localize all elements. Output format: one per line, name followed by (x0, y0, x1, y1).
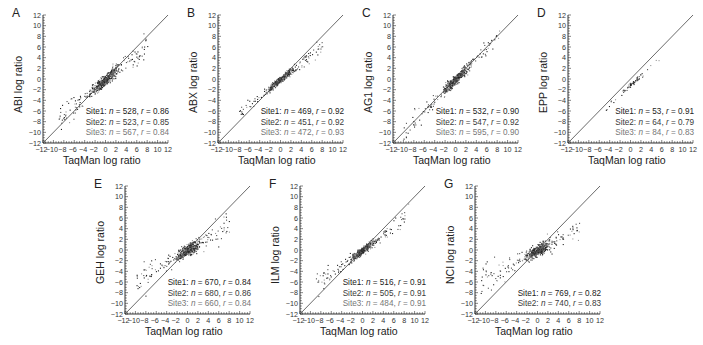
svg-text:6: 6 (392, 316, 396, 325)
site-stats-legend: Site1: n = 670, r = 0.84Site2: n = 680, … (168, 278, 251, 310)
site-stat-row: Site1: n = 528, r = 0.86 (86, 107, 169, 118)
svg-text:−10: −10 (46, 145, 58, 154)
svg-text:−4: −4 (115, 267, 123, 276)
site-stat-row: Site1: n = 469, r = 0.92 (261, 107, 344, 118)
svg-text:2: 2 (639, 145, 643, 154)
svg-text:−2: −2 (33, 85, 41, 94)
svg-text:12: 12 (339, 145, 347, 154)
x-axis-label: TaqMan log ratio (63, 154, 141, 166)
svg-text:10: 10 (411, 316, 419, 325)
svg-text:−8: −8 (33, 117, 41, 126)
svg-text:−10: −10 (461, 299, 473, 308)
svg-text:−4: −4 (383, 96, 391, 105)
svg-text:−2: −2 (115, 256, 123, 265)
svg-text:4: 4 (469, 224, 473, 233)
svg-text:−8: −8 (233, 145, 241, 154)
svg-text:−6: −6 (244, 145, 252, 154)
svg-text:12: 12 (164, 145, 172, 154)
svg-text:2: 2 (546, 316, 550, 325)
svg-text:0: 0 (387, 75, 391, 84)
svg-text:−8: −8 (115, 288, 123, 297)
svg-text:−4: −4 (254, 145, 262, 154)
svg-text:4: 4 (387, 53, 391, 62)
svg-text:2: 2 (469, 235, 473, 244)
site-stats-legend: Site1: n = 53, r = 0.91Site2: n = 64, r … (615, 107, 694, 139)
svg-text:−6: −6 (290, 278, 298, 287)
svg-text:−2: −2 (208, 85, 216, 94)
svg-text:2: 2 (371, 316, 375, 325)
svg-text:4: 4 (119, 224, 123, 233)
panel-d: D121086420−2−4−6−8−10−12−12−10−8−6−4−202… (525, 0, 700, 172)
site-stats-legend: Site1: n = 528, r = 0.86Site2: n = 523, … (86, 107, 169, 139)
svg-text:8: 8 (670, 145, 674, 154)
svg-text:6: 6 (660, 145, 664, 154)
svg-text:8: 8 (562, 32, 566, 41)
x-axis-label: TaqMan log ratio (145, 325, 223, 337)
y-axis-label: ABX log ratio (187, 52, 199, 113)
svg-text:−4: −4 (290, 267, 298, 276)
svg-text:4: 4 (556, 316, 560, 325)
svg-text:4: 4 (37, 53, 41, 62)
panel-e: E121086420−2−4−6−8−10−12−12−10−8−6−4−202… (82, 171, 257, 343)
svg-text:8: 8 (320, 145, 324, 154)
site-stats-legend: Site1: n = 516, r = 0.91Site2: n = 505, … (343, 278, 426, 310)
svg-text:12: 12 (33, 11, 41, 20)
svg-text:−6: −6 (115, 278, 123, 287)
svg-text:12: 12 (383, 11, 391, 20)
svg-text:−2: −2 (521, 316, 529, 325)
svg-text:12: 12 (689, 145, 697, 154)
svg-text:8: 8 (145, 145, 149, 154)
svg-text:8: 8 (577, 316, 581, 325)
svg-text:8: 8 (37, 32, 41, 41)
svg-text:2: 2 (387, 64, 391, 73)
site-stats-legend: Site1: n = 469, r = 0.92Site2: n = 451, … (261, 107, 344, 139)
svg-text:−10: −10 (128, 316, 140, 325)
svg-text:−10: −10 (303, 316, 315, 325)
svg-text:6: 6 (135, 145, 139, 154)
svg-text:−10: −10 (204, 128, 216, 137)
svg-text:10: 10 (465, 192, 473, 201)
svg-text:6: 6 (310, 145, 314, 154)
site-stat-row: Site3: n = 484, r = 0.91 (343, 299, 426, 310)
svg-text:−2: −2 (465, 256, 473, 265)
panel-g: G121086420−2−4−6−8−10−12−12−10−8−6−4−202… (432, 171, 607, 343)
svg-text:4: 4 (294, 224, 298, 233)
svg-text:6: 6 (485, 145, 489, 154)
svg-text:10: 10 (154, 145, 162, 154)
svg-text:2: 2 (289, 145, 293, 154)
y-axis-label: NCI log ratio (444, 226, 456, 284)
site-stat-row: Site3: n = 472, r = 0.93 (261, 128, 344, 139)
svg-text:8: 8 (212, 32, 216, 41)
svg-text:12: 12 (514, 145, 522, 154)
site-stat-row: Site2: n = 740, r = 0.83 (518, 299, 601, 310)
svg-text:−8: −8 (383, 117, 391, 126)
svg-text:0: 0 (37, 75, 41, 84)
svg-text:4: 4 (212, 53, 216, 62)
panel-f: F121086420−2−4−6−8−10−12−12−10−8−6−4−202… (257, 171, 432, 343)
svg-text:10: 10 (586, 316, 594, 325)
svg-text:6: 6 (469, 214, 473, 223)
svg-text:0: 0 (212, 75, 216, 84)
svg-text:0: 0 (536, 316, 540, 325)
svg-text:−10: −10 (571, 145, 583, 154)
svg-text:4: 4 (299, 145, 303, 154)
svg-text:−10: −10 (286, 299, 298, 308)
y-axis-label: GEH log ratio (94, 221, 106, 284)
svg-text:−2: −2 (383, 85, 391, 94)
site-stat-row: Site2: n = 64, r = 0.79 (615, 118, 694, 129)
svg-text:10: 10 (504, 145, 512, 154)
svg-text:−2: −2 (346, 316, 354, 325)
svg-text:0: 0 (186, 316, 190, 325)
svg-text:−6: −6 (594, 145, 602, 154)
site-stats-legend: Site1: n = 532, r = 0.90Site2: n = 547, … (436, 107, 519, 139)
svg-text:10: 10 (208, 21, 216, 30)
svg-text:−2: −2 (89, 145, 97, 154)
svg-text:−2: −2 (439, 145, 447, 154)
scatter-plot: 121086420−2−4−6−8−10−12−12−10−8−6−4−2024… (350, 0, 525, 172)
svg-text:−2: −2 (614, 145, 622, 154)
svg-text:6: 6 (212, 43, 216, 52)
site-stat-row: Site1: n = 53, r = 0.91 (615, 107, 694, 118)
svg-text:12: 12 (421, 316, 429, 325)
svg-text:10: 10 (115, 192, 123, 201)
svg-text:10: 10 (290, 192, 298, 201)
